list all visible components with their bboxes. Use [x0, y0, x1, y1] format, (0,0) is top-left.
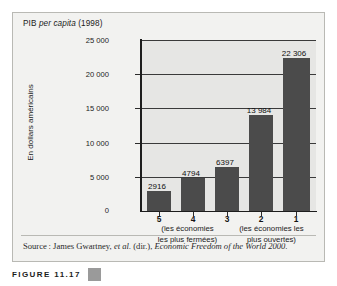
source-work-title: Economic Freedom of the World 2000 — [154, 241, 285, 251]
bar-2[interactable] — [249, 115, 273, 211]
chart-title-italic: per capita — [39, 19, 76, 28]
x-tick-mark-5 — [159, 212, 160, 216]
figure-caption-row: FIGURE 11.17 — [12, 268, 101, 281]
bar-value-1: 22 306 — [274, 49, 314, 58]
x-tick-mark-3 — [227, 212, 228, 216]
bar-value-3: 6397 — [207, 158, 243, 167]
gridline-25000 — [141, 40, 316, 41]
chart-title-tail: (1998) — [76, 19, 103, 28]
bar-value-2: 13 984 — [239, 106, 279, 115]
y-axis-title: En dollars américains — [26, 63, 35, 183]
bar-1[interactable] — [283, 58, 310, 211]
y-tick-mark-10000 — [135, 143, 140, 144]
bar-value-4: 4794 — [173, 169, 209, 178]
y-tick-label-0: 0 — [49, 206, 109, 215]
bar-4[interactable] — [181, 178, 205, 211]
y-tick-label-25000: 25 000 — [49, 36, 109, 45]
x-annotation-open-line1: (les économies les — [224, 224, 319, 235]
y-tick-mark-20000 — [135, 74, 140, 75]
y-tick-label-5000: 5 000 — [49, 173, 109, 182]
x-axis-line — [140, 211, 317, 213]
bar-3[interactable] — [215, 167, 239, 211]
source-line: Source : James Gwartney, et al. (dir.), … — [23, 241, 288, 251]
y-tick-label-10000: 10 000 — [49, 139, 109, 148]
x-tick-mark-2 — [261, 212, 262, 216]
x-annotation-closed-line1: (les économies — [140, 224, 235, 235]
y-tick-label-15000: 15 000 — [49, 104, 109, 113]
chart-title-plain: PIB — [23, 19, 39, 28]
y-tick-mark-15000 — [135, 108, 140, 109]
caption-color-block — [88, 268, 101, 281]
x-tick-mark-1 — [296, 212, 297, 216]
figure-caption: FIGURE 11.17 — [12, 270, 81, 279]
figure-panel: PIB per capita (1998) En dollars américa… — [12, 12, 325, 262]
source-suffix: . — [285, 241, 287, 251]
source-prefix: Source : James Gwartney, — [23, 241, 114, 251]
y-tick-mark-5000 — [135, 177, 140, 178]
x-tick-mark-4 — [193, 212, 194, 216]
bar-5[interactable] — [147, 191, 171, 211]
source-middle: (dir.), — [131, 241, 154, 251]
source-et-al: et al. — [114, 241, 131, 251]
y-tick-label-20000: 20 000 — [49, 70, 109, 79]
source-divider — [21, 235, 316, 236]
bar-value-5: 2916 — [139, 182, 175, 191]
chart-title: PIB per capita (1998) — [23, 19, 103, 28]
